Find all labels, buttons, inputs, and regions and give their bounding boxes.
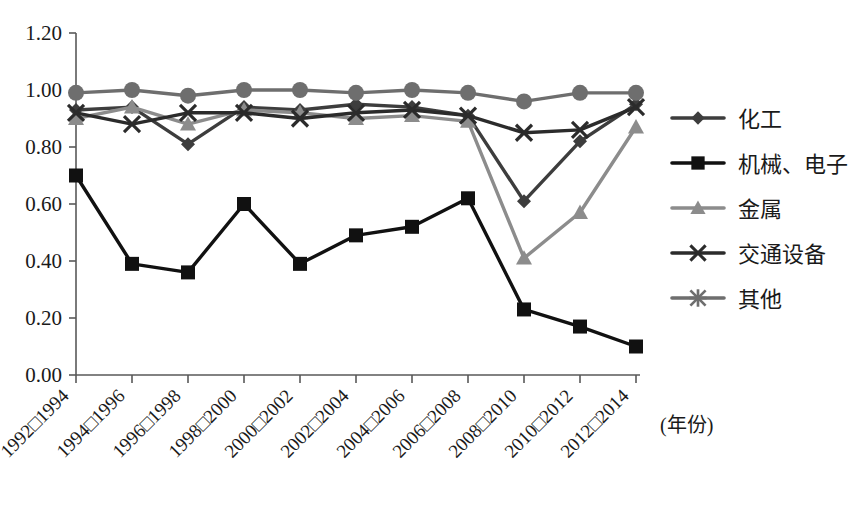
chart-canvas: 0.000.200.400.600.801.001.20 1992□199419… xyxy=(0,0,858,505)
chart-legend: 化工机械、电子金属交通设备其他 xyxy=(672,107,848,312)
x-axis xyxy=(76,375,640,383)
legend-item[interactable]: 其他 xyxy=(672,287,782,312)
legend-label: 交通设备 xyxy=(738,242,826,267)
series-square xyxy=(69,169,643,354)
line-chart: 0.000.200.400.600.801.001.20 1992□199419… xyxy=(0,0,858,505)
legend-label: 化工 xyxy=(738,107,782,132)
marker-triangle xyxy=(628,119,644,133)
legend-label: 金属 xyxy=(738,197,782,222)
marker-circle xyxy=(516,93,532,109)
x-axis-title: (年份) xyxy=(660,414,713,437)
legend-label: 其他 xyxy=(738,287,782,312)
marker-star xyxy=(689,289,706,306)
marker-circle xyxy=(572,85,588,101)
y-axis: 0.000.200.400.600.801.001.20 xyxy=(25,21,76,387)
marker-square xyxy=(517,302,531,316)
marker-circle xyxy=(180,88,196,104)
marker-circle xyxy=(68,85,84,101)
x-tick-labels: 1992□19941994□19961996□19981998□20002000… xyxy=(0,385,633,462)
y-tick-label: 0.80 xyxy=(25,135,62,159)
marker-circle xyxy=(404,82,420,98)
legend-item[interactable]: 化工 xyxy=(672,107,782,132)
marker-square xyxy=(293,257,307,271)
marker-circle xyxy=(124,82,140,98)
y-tick-label: 0.40 xyxy=(25,249,62,273)
y-tick-label: 0.20 xyxy=(25,306,62,330)
marker-circle xyxy=(628,85,644,101)
y-tick-label: 0.60 xyxy=(25,192,62,216)
legend-item[interactable]: 金属 xyxy=(672,197,782,222)
marker-square xyxy=(349,228,363,242)
legend-item[interactable]: 交通设备 xyxy=(672,242,826,267)
y-tick-label: 1.20 xyxy=(25,21,62,45)
marker-circle xyxy=(292,82,308,98)
marker-circle xyxy=(236,82,252,98)
marker-square xyxy=(125,257,139,271)
data-series-layer xyxy=(68,82,644,354)
marker-square xyxy=(629,340,643,354)
marker-circle xyxy=(460,85,476,101)
marker-square xyxy=(181,265,195,279)
marker-square xyxy=(461,191,475,205)
marker-circle xyxy=(348,85,364,101)
y-tick-label: 0.00 xyxy=(25,363,62,387)
legend-item[interactable]: 机械、电子 xyxy=(672,152,848,177)
legend-label: 机械、电子 xyxy=(738,152,848,177)
marker-square xyxy=(573,320,587,334)
marker-diamond xyxy=(691,111,704,124)
y-tick-label: 1.00 xyxy=(25,78,62,102)
marker-square xyxy=(691,156,704,169)
marker-square xyxy=(237,197,251,211)
marker-square xyxy=(69,169,83,183)
marker-square xyxy=(405,220,419,234)
